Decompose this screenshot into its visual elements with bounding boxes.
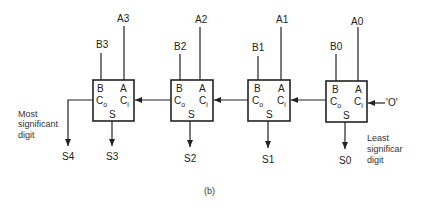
output-s1-label: S1: [262, 154, 275, 165]
cell-s-port: S: [109, 109, 116, 120]
msd-note: Most significant digit: [18, 109, 59, 140]
cell-co-port: Co: [252, 95, 263, 108]
cell-a-port: A: [199, 83, 206, 94]
input-b1-label: B1: [252, 42, 265, 53]
output-s2-label: S2: [184, 153, 197, 164]
svg-text:digit: digit: [18, 130, 35, 140]
full-adder-cell-1: B1 A1 B A Co Ci S S1: [248, 14, 290, 165]
ripple-carry-adder-diagram: B3 A3 B A Co Ci S S3 S4 Most significant…: [0, 0, 423, 207]
output-s4-label: S4: [62, 151, 75, 162]
full-adder-cell-2: B2 A2 B A Co Ci S S2: [171, 14, 213, 164]
cell-a-port: A: [355, 84, 362, 95]
svg-text:Most: Most: [18, 109, 38, 119]
cell-s-port: S: [188, 109, 195, 120]
svg-text:digit: digit: [367, 155, 384, 165]
input-a2-label: A2: [195, 14, 208, 25]
cell-ci-port: Ci: [120, 95, 129, 108]
cell-s-port: S: [343, 110, 350, 121]
input-a0-label: A0: [351, 16, 364, 27]
cell-co-port: Co: [96, 95, 107, 108]
cell-co-port: Co: [174, 95, 185, 108]
cell-s-port: S: [266, 109, 273, 120]
cell-b-port: B: [332, 84, 339, 95]
svg-text:significant: significant: [18, 119, 59, 129]
full-adder-cell-0: B0 A0 B A Co Ci S S0: [326, 16, 367, 166]
cell-a-port: A: [278, 83, 285, 94]
figure-caption: (b): [204, 186, 215, 196]
cell-ci-port: Ci: [354, 96, 363, 109]
carry-in-zero-label: 'O': [386, 97, 398, 108]
svg-text:significar: significar: [367, 144, 403, 154]
cell-ci-port: Ci: [199, 95, 208, 108]
input-a3-label: A3: [117, 13, 130, 24]
output-s0-label: S0: [339, 155, 352, 166]
cell-b-port: B: [254, 83, 261, 94]
full-adder-cell-3: B3 A3 B A Co Ci S S3: [93, 13, 134, 162]
input-a1-label: A1: [276, 14, 289, 25]
input-b3-label: B3: [96, 39, 109, 50]
cell-a-port: A: [120, 83, 127, 94]
input-b0-label: B0: [330, 41, 343, 52]
cell-b-port: B: [176, 83, 183, 94]
cell-ci-port: Ci: [277, 95, 286, 108]
svg-text:Least: Least: [367, 133, 390, 143]
input-b2-label: B2: [174, 41, 187, 52]
cell-b-port: B: [97, 83, 104, 94]
cell-co-port: Co: [330, 96, 341, 109]
lsd-note: Least significar digit: [367, 133, 403, 165]
output-s3-label: S3: [106, 151, 119, 162]
